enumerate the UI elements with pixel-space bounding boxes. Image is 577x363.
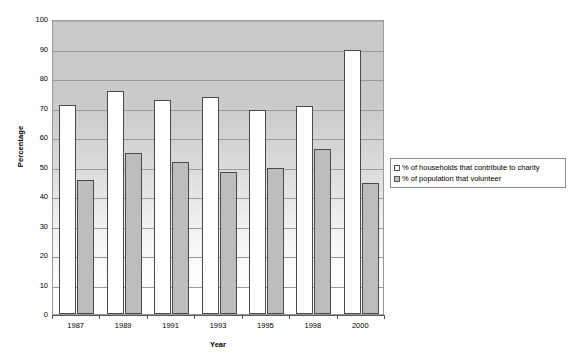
y-tick-label: 90: [22, 46, 48, 54]
bar: [59, 105, 76, 314]
bar: [125, 153, 142, 314]
bar: [249, 110, 266, 314]
bar-chart: Percentage 0102030405060708090100 198719…: [0, 0, 577, 363]
x-tick-label: 2000: [352, 321, 369, 330]
bar: [172, 162, 189, 314]
x-axis-line: [52, 315, 384, 316]
legend-swatch-icon: [394, 165, 400, 171]
bar: [77, 180, 94, 314]
legend-swatch-icon: [394, 176, 400, 182]
bar: [202, 97, 219, 314]
y-axis-tick-labels: 0102030405060708090100: [22, 15, 48, 315]
legend-label: % of population that volunteer: [402, 175, 501, 183]
bar: [267, 168, 284, 314]
y-tick-label: 70: [22, 105, 48, 113]
bar: [220, 172, 237, 314]
legend-label: % of households that contribute to chari…: [402, 164, 540, 172]
x-tick-label: 1993: [210, 321, 227, 330]
x-axis-title: Year: [52, 340, 384, 349]
x-tick-label: 1989: [115, 321, 132, 330]
x-tick: [147, 315, 148, 319]
bars-layer: [53, 21, 383, 314]
y-tick-label: 50: [22, 164, 48, 172]
x-tick: [289, 315, 290, 319]
bar: [107, 91, 124, 314]
x-tick-label: 1998: [305, 321, 322, 330]
y-tick-label: 0: [22, 311, 48, 319]
bar: [362, 183, 379, 314]
x-tick: [52, 315, 53, 319]
bar: [296, 106, 313, 314]
legend-entry: % of population that volunteer: [394, 173, 562, 184]
x-tick: [99, 315, 100, 319]
x-tick: [242, 315, 243, 319]
bar: [314, 149, 331, 314]
y-tick-label: 30: [22, 223, 48, 231]
y-tick-label: 10: [22, 282, 48, 290]
x-tick: [384, 315, 385, 319]
y-tick-label: 60: [22, 134, 48, 142]
y-tick-label: 40: [22, 193, 48, 201]
x-tick-label: 1995: [257, 321, 274, 330]
x-tick-label: 1991: [162, 321, 179, 330]
bar: [154, 100, 171, 314]
y-tick-label: 100: [22, 16, 48, 24]
x-tick: [194, 315, 195, 319]
bar: [344, 50, 361, 314]
chart-legend: % of households that contribute to chari…: [390, 158, 566, 188]
legend-entry: % of households that contribute to chari…: [394, 162, 562, 173]
x-tick-label: 1987: [67, 321, 84, 330]
y-tick-label: 80: [22, 75, 48, 83]
x-tick: [337, 315, 338, 319]
plot-area: [52, 20, 384, 315]
y-tick-label: 20: [22, 252, 48, 260]
